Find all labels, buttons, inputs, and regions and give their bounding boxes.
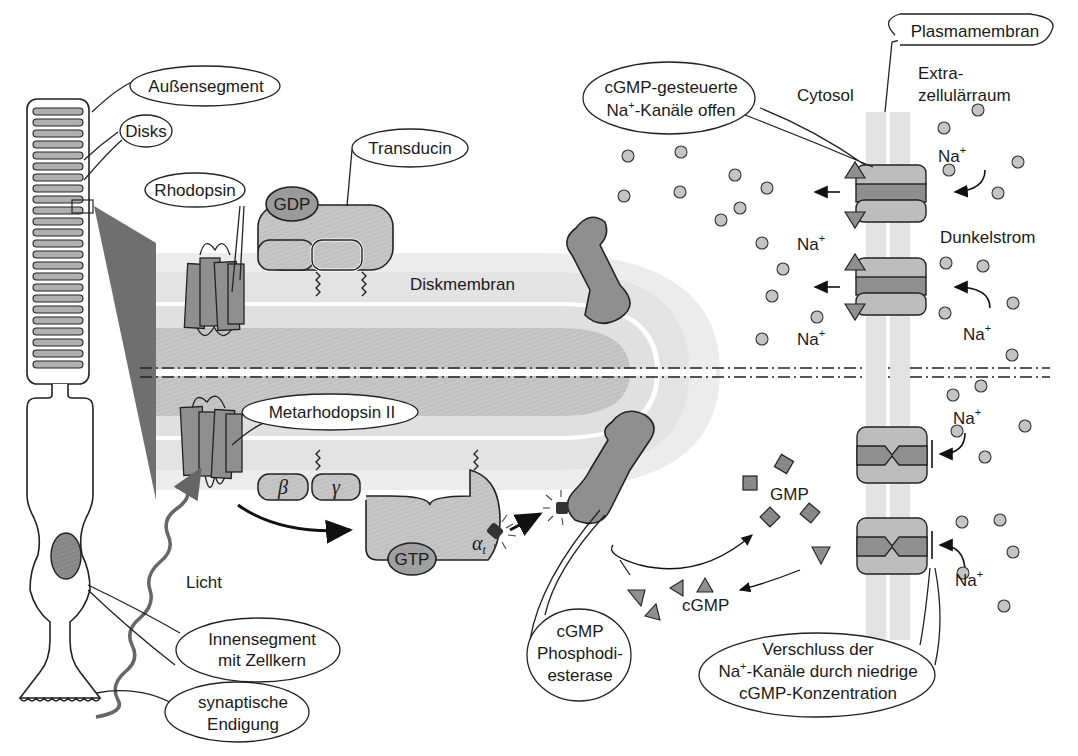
na-label: Na+ (797, 232, 825, 254)
open-channel-2 (845, 254, 926, 320)
disk (33, 119, 83, 126)
disk (33, 317, 83, 324)
svg-text:cGMP: cGMP (556, 622, 603, 641)
dunkelstrom-label: Dunkelstrom (940, 228, 1035, 247)
svg-text:Na+-Kanäle offen: Na+-Kanäle offen (607, 99, 736, 120)
sodium-ion (734, 202, 746, 214)
licht-label: Licht (186, 573, 222, 592)
pde-to-gmp-arrow (612, 535, 752, 569)
sodium-ion (1012, 156, 1024, 168)
sodium-ion (998, 600, 1010, 612)
disk (33, 229, 83, 236)
magnification-wedge (94, 206, 156, 500)
svg-text:synaptische: synaptische (198, 693, 288, 712)
sodium-ion (729, 169, 741, 181)
sodium-ion (1007, 297, 1019, 309)
sodium-ion (1007, 546, 1019, 558)
na-label: Na+ (953, 406, 981, 428)
gtp-label: GTP (395, 550, 430, 569)
sodium-ion (777, 263, 789, 275)
disk (33, 295, 83, 302)
disk (33, 163, 83, 170)
sodium-ion (756, 237, 768, 249)
sodium-ion (977, 260, 989, 272)
cytosol-label: Cytosol (797, 86, 854, 105)
callout-disks: Disks (84, 115, 172, 180)
sodium-ion (715, 214, 727, 226)
sodium-ion (1019, 420, 1031, 432)
disk (33, 339, 83, 346)
sodium-ion (674, 186, 686, 198)
callout-transducin: Transducin (347, 129, 468, 206)
diskmembran-label: Diskmembran (410, 275, 515, 294)
sodium-ion (972, 104, 984, 116)
disk (33, 328, 83, 335)
sodium-ion (675, 146, 687, 158)
gdp-label: GDP (274, 195, 311, 214)
cgmp-return-arrow (740, 570, 800, 590)
sodium-ion (622, 150, 634, 162)
cgmp-label: cGMP (682, 596, 729, 615)
disk (33, 306, 83, 313)
svg-text:Disks: Disks (125, 122, 167, 141)
nucleus (51, 533, 81, 579)
svg-text:mit Zellkern: mit Zellkern (218, 651, 306, 670)
svg-text:cGMP-Konzentration: cGMP-Konzentration (739, 684, 897, 703)
extrazellular-label-1: Extra- (918, 64, 963, 83)
svg-text:Rhodopsin: Rhodopsin (154, 181, 235, 200)
sodium-ion (947, 389, 959, 401)
gmp-label: GMP (770, 485, 809, 504)
light-wave (96, 470, 200, 717)
disk (33, 273, 83, 280)
disk (33, 152, 83, 159)
disk (33, 240, 83, 247)
alpha-to-pde-arrow (510, 514, 540, 530)
svg-text:Innensegment: Innensegment (208, 630, 316, 649)
disk (33, 284, 83, 291)
svg-text:Verschluss der: Verschluss der (762, 640, 874, 659)
svg-text:Na+-Kanäle durch niedrige: Na+-Kanäle durch niedrige (718, 660, 917, 681)
disk (33, 262, 83, 269)
svg-text:Außensegment: Außensegment (148, 77, 264, 96)
callout-innensegment: Innensegment mit Zellkern (88, 585, 340, 682)
disk (33, 251, 83, 258)
sodium-ion (938, 122, 950, 134)
sodium-ion (618, 190, 630, 202)
na-label: Na+ (963, 322, 991, 344)
sodium-ion (994, 514, 1006, 526)
closed-channel-2 (857, 518, 965, 574)
disk (33, 108, 83, 115)
sodium-ion (756, 333, 768, 345)
gamma-subunit-label: γ (332, 476, 341, 499)
sodium-ion (939, 307, 951, 319)
svg-text:cGMP-gesteuerte: cGMP-gesteuerte (604, 78, 737, 97)
disk (33, 174, 83, 181)
na-label: Na+ (955, 568, 983, 590)
disk (33, 141, 83, 148)
activation-arrow (238, 505, 350, 531)
disk (33, 130, 83, 137)
sodium-ion (992, 187, 1004, 199)
sodium-ion (761, 182, 773, 194)
phototransduction-diagram: Diskmembran GDP (0, 0, 1078, 756)
na-label: Na+ (938, 144, 966, 166)
svg-text:esterase: esterase (547, 666, 612, 685)
svg-text:Phosphodi-: Phosphodi- (537, 644, 623, 663)
callout-synaptische-endigung: synaptische Endigung (96, 682, 309, 742)
svg-text:Metarhodopsin II: Metarhodopsin II (269, 403, 396, 422)
svg-text:Transducin: Transducin (368, 139, 451, 158)
sodium-ion (975, 380, 987, 392)
sodium-ion (956, 516, 968, 528)
sodium-ion (811, 311, 823, 323)
sodium-ion (940, 257, 952, 269)
sodium-ion (1006, 349, 1018, 361)
svg-text:Endigung: Endigung (207, 715, 279, 734)
extrazellular-label-2: zellulärraum (918, 86, 1011, 105)
beta-subunit-label: β (277, 476, 288, 499)
callout-phosphodiesterase: cGMP Phosphodi- esterase (527, 510, 631, 701)
callout-aussensegment: Außensegment (92, 66, 280, 112)
sodium-ion (979, 451, 991, 463)
disk (33, 185, 83, 192)
sodium-ion (766, 290, 778, 302)
closed-channel-1 (857, 427, 965, 483)
